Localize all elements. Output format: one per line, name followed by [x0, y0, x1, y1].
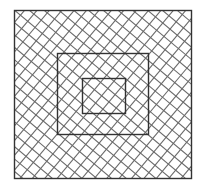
hatch-line [105, 51, 201, 190]
hatch-line [127, 70, 201, 190]
hatch-line [0, 119, 125, 190]
crosshatch-fill [0, 0, 201, 190]
nested-squares-diagram [0, 0, 201, 190]
hatch-line [0, 0, 137, 169]
hatch-line [0, 10, 201, 190]
hatch-line [0, 0, 201, 180]
